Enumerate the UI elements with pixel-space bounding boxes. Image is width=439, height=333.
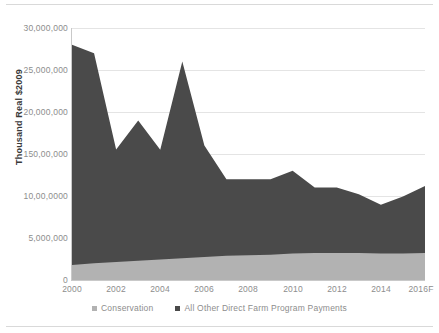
x-tick-label: 2008 (238, 284, 258, 294)
bottom-divider (6, 326, 433, 327)
x-tick-label: 2000 (62, 284, 82, 294)
legend-item-all-other-direct-farm-program-payments[interactable]: All Other Direct Farm Program Payments (175, 303, 347, 313)
x-tick-label: 2006 (194, 284, 214, 294)
chart-figure: Thousand Real $2009 0 5,000,000 10,00,00… (0, 0, 439, 333)
x-tick-label: 2012 (327, 284, 347, 294)
stacked-area-series (72, 28, 425, 280)
y-tick-label: 5,000,000 (28, 233, 68, 243)
y-tick-label: 150,00,000 (23, 149, 68, 159)
series-area-all-other-direct-farm-program-payments (72, 45, 425, 280)
legend-label: Conservation (101, 303, 153, 313)
y-tick-label: 30,000,000 (23, 23, 68, 33)
y-tick-label: 10,00,0000 (23, 191, 68, 201)
legend-swatch-icon (175, 306, 180, 311)
legend-swatch-icon (92, 306, 97, 311)
x-tick-label: 2002 (106, 284, 126, 294)
x-tick-label: 2014 (371, 284, 391, 294)
x-tick-label: 2016F (408, 284, 433, 294)
plot-area (72, 28, 425, 280)
y-tick-label: 20,000,000 (23, 107, 68, 117)
x-axis-line (71, 280, 425, 281)
x-tick-label: 2004 (150, 284, 170, 294)
chart-legend: Conservation All Other Direct Farm Progr… (0, 303, 439, 313)
top-divider (6, 4, 433, 5)
legend-item-conservation[interactable]: Conservation (92, 303, 153, 313)
legend-label: All Other Direct Farm Program Payments (184, 303, 347, 313)
y-tick-label: 25,000,000 (23, 65, 68, 75)
x-tick-label: 2010 (283, 284, 303, 294)
y-axis-line (71, 28, 72, 281)
y-axis-ticks: 0 5,000,000 10,00,0000 150,00,000 20,000… (0, 0, 68, 333)
